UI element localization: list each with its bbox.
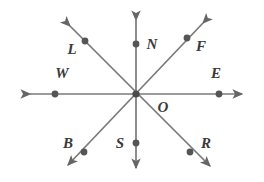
point-dot-W — [52, 91, 59, 98]
point-dot-F — [184, 35, 191, 42]
point-dot-L — [82, 38, 89, 45]
point-label-S: S — [116, 136, 124, 151]
point-label-E: E — [211, 66, 221, 81]
point-label-O: O — [158, 100, 169, 115]
diagonal-line-lr — [70, 26, 210, 166]
point-dot-R — [187, 149, 194, 156]
point-label-R: R — [201, 136, 211, 151]
point-dot-S — [133, 140, 140, 147]
point-label-F: F — [196, 39, 206, 54]
point-label-N: N — [147, 37, 158, 52]
point-dot-B — [81, 149, 88, 156]
point-dot-O — [132, 90, 139, 97]
geometry-figure: L N F W E B S R O — [0, 0, 264, 182]
point-dot-E — [216, 91, 223, 98]
geometry-canvas — [0, 0, 264, 182]
point-label-B: B — [63, 136, 73, 151]
point-label-L: L — [67, 42, 76, 57]
point-dot-N — [133, 41, 140, 48]
point-label-W: W — [55, 66, 68, 81]
